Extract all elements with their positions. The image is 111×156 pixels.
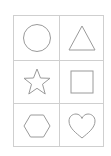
- star-icon: [22, 67, 52, 97]
- square-icon: [67, 67, 97, 97]
- triangle-icon: [67, 23, 97, 53]
- hexagon-icon: [22, 111, 52, 141]
- cell-star: [14, 60, 59, 104]
- circle-icon: [22, 23, 52, 53]
- cell-heart: [59, 104, 104, 148]
- cell-circle: [14, 16, 59, 60]
- cell-triangle: [59, 16, 104, 60]
- shape-grid: [13, 15, 104, 147]
- cell-hexagon: [14, 104, 59, 148]
- cell-square: [59, 60, 104, 104]
- heart-icon: [67, 111, 97, 141]
